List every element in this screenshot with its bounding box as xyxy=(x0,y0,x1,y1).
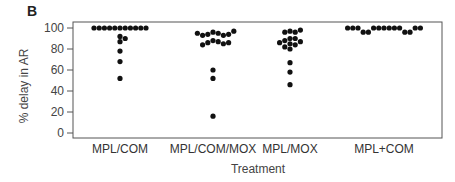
data-point xyxy=(91,25,96,30)
data-point xyxy=(210,114,215,119)
data-point xyxy=(123,25,128,30)
data-point xyxy=(117,39,122,44)
data-point xyxy=(287,46,292,51)
data-point xyxy=(226,40,231,45)
data-point xyxy=(210,76,215,81)
data-point xyxy=(200,42,205,47)
data-point xyxy=(210,30,215,35)
data-point xyxy=(112,25,117,30)
data-point xyxy=(226,32,231,37)
data-points xyxy=(91,25,423,118)
data-point xyxy=(97,25,102,30)
x-category-label: MPL/COM xyxy=(92,142,148,156)
data-point xyxy=(117,25,122,30)
x-category-label: MPL/MOX xyxy=(262,142,317,156)
x-category-label: MPL/COM/MOX xyxy=(170,142,257,156)
data-point xyxy=(293,42,298,47)
data-point xyxy=(102,25,107,30)
data-point xyxy=(138,25,143,30)
data-point xyxy=(205,32,210,37)
data-point xyxy=(282,44,287,49)
data-point xyxy=(282,38,287,43)
data-point xyxy=(387,25,392,30)
data-point xyxy=(210,67,215,72)
data-point xyxy=(298,39,303,44)
beeswarm-plot: 020406080100 MPL/COMMPL/COM/MOXMPL/MOXMP… xyxy=(0,0,455,182)
data-point xyxy=(210,38,215,43)
y-tick-label: 60 xyxy=(51,63,65,77)
data-point xyxy=(355,25,360,30)
data-point xyxy=(231,29,236,34)
data-point xyxy=(123,36,128,41)
data-point xyxy=(143,25,148,30)
data-point xyxy=(345,25,350,30)
data-point xyxy=(397,25,402,30)
data-point xyxy=(413,25,418,30)
data-point xyxy=(287,82,292,87)
axes: 020406080100 xyxy=(44,21,442,140)
data-point xyxy=(221,33,226,38)
data-point xyxy=(287,60,292,65)
data-point xyxy=(402,30,407,35)
data-point xyxy=(361,30,366,35)
x-category-label: MPL+COM xyxy=(354,142,414,156)
data-point xyxy=(287,70,292,75)
data-point xyxy=(277,40,282,45)
data-point xyxy=(117,34,122,39)
data-point xyxy=(293,36,298,41)
data-point xyxy=(381,25,386,30)
data-point xyxy=(195,31,200,36)
data-point xyxy=(107,25,112,30)
y-tick-label: 80 xyxy=(51,42,65,56)
data-point xyxy=(117,76,122,81)
data-point xyxy=(376,25,381,30)
data-point xyxy=(418,25,423,30)
data-point xyxy=(133,25,138,30)
data-point xyxy=(366,30,371,35)
category-labels: MPL/COMMPL/COM/MOXMPL/MOXMPL+COM xyxy=(92,142,414,156)
data-point xyxy=(205,40,210,45)
data-point xyxy=(117,49,122,54)
y-tick-label: 20 xyxy=(51,105,65,119)
data-point xyxy=(371,25,376,30)
data-point xyxy=(200,33,205,38)
data-point xyxy=(216,39,221,44)
y-tick-label: 0 xyxy=(57,126,64,140)
data-point xyxy=(221,41,226,46)
data-point xyxy=(117,59,122,64)
data-point xyxy=(293,30,298,35)
data-point xyxy=(298,28,303,33)
y-tick-label: 40 xyxy=(51,84,65,98)
data-point xyxy=(128,25,133,30)
data-point xyxy=(287,36,292,41)
data-point xyxy=(392,25,397,30)
data-point xyxy=(350,25,355,30)
data-point xyxy=(216,31,221,36)
data-point xyxy=(407,30,412,35)
data-point xyxy=(282,30,287,35)
data-point xyxy=(287,41,292,46)
data-point xyxy=(287,29,292,34)
y-tick-label: 100 xyxy=(44,21,64,35)
plot-frame xyxy=(73,22,442,138)
